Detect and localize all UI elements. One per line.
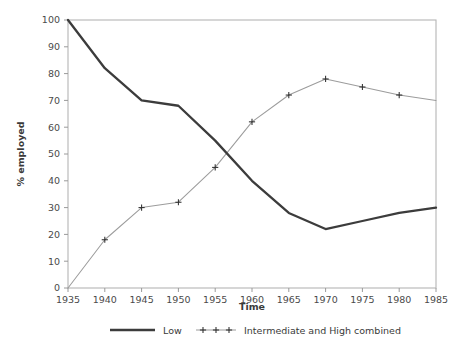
legend-plus-marker bbox=[213, 327, 219, 333]
chart-container: 0102030405060708090100 19351940194519501… bbox=[0, 0, 455, 346]
y-tick-label: 10 bbox=[48, 256, 60, 267]
y-tick-label: 20 bbox=[48, 229, 60, 240]
y-tick-label: 90 bbox=[48, 41, 60, 52]
y-tick-label: 30 bbox=[48, 202, 60, 213]
series-line-intermediate-high bbox=[68, 79, 436, 288]
x-tick-label: 1985 bbox=[424, 294, 448, 305]
x-tick-label: 1935 bbox=[56, 294, 80, 305]
x-tick-label: 1945 bbox=[130, 294, 154, 305]
y-tick-label: 70 bbox=[48, 95, 60, 106]
legend-plus-marker bbox=[200, 327, 206, 333]
data-point-marker bbox=[359, 84, 365, 90]
y-tick-label: 100 bbox=[42, 14, 60, 25]
y-axis-ticks bbox=[64, 20, 68, 288]
y-axis-tick-labels: 0102030405060708090100 bbox=[42, 14, 60, 293]
x-tick-label: 1975 bbox=[350, 294, 374, 305]
data-point-marker bbox=[396, 92, 402, 98]
legend-label-intermediate-high: Intermediate and High combined bbox=[244, 325, 401, 336]
x-tick-label: 1965 bbox=[277, 294, 301, 305]
x-tick-label: 1940 bbox=[93, 294, 117, 305]
y-tick-label: 0 bbox=[54, 282, 60, 293]
x-axis-ticks bbox=[68, 288, 436, 292]
x-axis-title: Time bbox=[239, 301, 265, 312]
y-axis-title: % employed bbox=[15, 121, 26, 186]
x-tick-label: 1950 bbox=[166, 294, 190, 305]
y-tick-label: 60 bbox=[48, 122, 60, 133]
plot-area-frame bbox=[68, 20, 436, 288]
x-tick-label: 1980 bbox=[387, 294, 411, 305]
y-tick-label: 80 bbox=[48, 68, 60, 79]
x-tick-label: 1970 bbox=[314, 294, 338, 305]
x-tick-label: 1955 bbox=[203, 294, 227, 305]
legend-label-low: Low bbox=[163, 325, 182, 336]
y-tick-label: 50 bbox=[48, 148, 60, 159]
line-chart: 0102030405060708090100 19351940194519501… bbox=[0, 0, 455, 346]
data-point-marker bbox=[323, 76, 329, 82]
y-tick-label: 40 bbox=[48, 175, 60, 186]
chart-legend: Low Intermediate and High combined bbox=[110, 325, 401, 336]
legend-plus-markers-icon bbox=[200, 327, 232, 333]
legend-plus-marker bbox=[226, 327, 232, 333]
